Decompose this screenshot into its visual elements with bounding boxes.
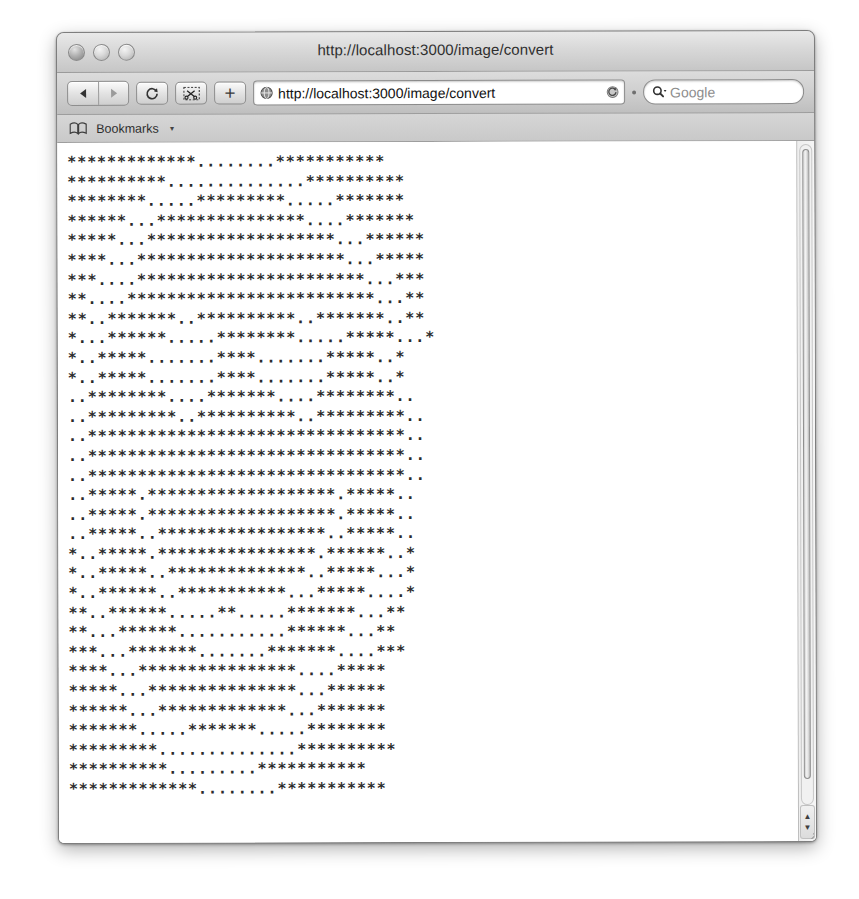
screenshot-root: { "window": { "title": "http://localhost… — [0, 0, 859, 899]
window-title: http://localhost:3000/image/convert — [57, 40, 814, 59]
magnifier-icon — [652, 85, 667, 98]
search-placeholder: Google — [670, 84, 715, 100]
url-reload-icon[interactable] — [606, 86, 619, 99]
bookmarks-label[interactable]: Bookmarks — [96, 121, 159, 135]
url-text: http://localhost:3000/image/convert — [278, 84, 601, 101]
forward-arrow-icon — [108, 88, 119, 99]
back-arrow-icon — [78, 88, 89, 99]
reload-button[interactable] — [136, 82, 168, 105]
title-bar[interactable]: http://localhost:3000/image/convert — [57, 31, 814, 73]
snip-button[interactable] — [175, 82, 207, 105]
ascii-art-output: *************........*********** *******… — [67, 151, 798, 800]
chevron-down-icon[interactable]: ▾ — [170, 124, 174, 133]
scroll-up-icon[interactable]: ▲ — [804, 812, 812, 821]
search-field[interactable]: Google — [643, 79, 804, 104]
nav-button-group — [67, 81, 129, 106]
toolbar-separator-dot — [632, 90, 636, 94]
scrollbar-thumb[interactable] — [802, 149, 811, 779]
open-book-icon[interactable] — [69, 122, 87, 135]
new-tab-button[interactable]: + — [214, 81, 246, 104]
web-page: *************........*********** *******… — [57, 141, 798, 843]
scissors-icon — [183, 86, 200, 100]
bookmarks-bar: Bookmarks ▾ — [57, 113, 814, 143]
content-area: *************........*********** *******… — [57, 141, 816, 843]
forward-button[interactable] — [98, 82, 128, 105]
reload-icon — [145, 86, 159, 100]
globe-icon — [260, 86, 273, 99]
scrollbar-track[interactable] — [799, 144, 814, 805]
vertical-scrollbar[interactable]: ▲ ▼ — [796, 141, 816, 841]
url-bar[interactable]: http://localhost:3000/image/convert — [253, 80, 625, 106]
back-button[interactable] — [68, 82, 98, 105]
browser-window: http://localhost:3000/image/convert — [56, 30, 817, 844]
browser-toolbar: + http://localhost:3000/image/convert — [57, 71, 814, 115]
resize-grip[interactable] — [800, 825, 814, 839]
